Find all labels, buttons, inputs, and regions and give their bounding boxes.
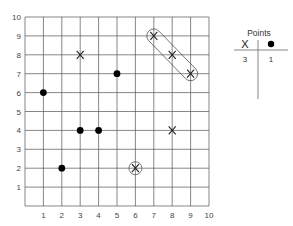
legend-title: Points [247,28,271,38]
y-tick-label: 6 [17,89,22,98]
y-tick-label: 9 [17,32,22,41]
legend-x-symbol-icon: X [241,38,249,50]
grid-lines [25,17,209,206]
y-tick-label: 10 [12,13,21,22]
x-tick-label: 4 [96,211,101,220]
annotations [129,26,201,175]
y-tick-label: 4 [17,126,22,135]
legend-dot-count: 1 [269,55,274,64]
y-tick-label: 2 [17,164,22,173]
x-tick-label: 5 [115,211,120,220]
x-tick-label: 10 [205,211,214,220]
dot-marker-icon [114,70,121,77]
x-tick-label: 9 [188,211,193,220]
x-tick-label: 2 [60,211,65,220]
legend: PointsX31 [234,28,288,99]
dot-marker-icon [40,89,47,96]
x-tick-label: 1 [41,211,46,220]
y-axis-tick-labels: 12345678910 [12,13,21,192]
x-tick-label: 7 [152,211,157,220]
x-tick-label: 6 [133,211,138,220]
y-tick-label: 1 [17,183,22,192]
y-tick-label: 8 [17,51,22,60]
scatter-plot: 12345678910 12345678910 PointsX31 [0,0,293,226]
dot-marker-icon [95,127,102,134]
legend-x-count: 3 [243,55,248,64]
x-axis-tick-labels: 12345678910 [41,211,214,220]
legend-dot-symbol-icon [268,41,274,47]
y-tick-label: 5 [17,108,22,117]
x-tick-label: 8 [170,211,175,220]
y-tick-label: 3 [17,145,22,154]
dot-marker-icon [58,165,65,172]
y-tick-label: 7 [17,70,22,79]
dot-marker-icon [77,127,84,134]
x-tick-label: 3 [78,211,83,220]
